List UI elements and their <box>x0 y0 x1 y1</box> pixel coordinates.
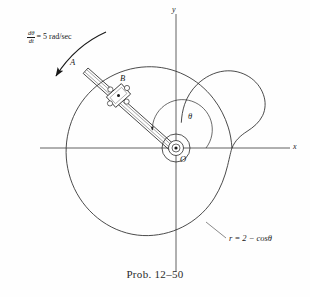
rate-value: = 5 rad/sec <box>36 32 71 41</box>
equation-leader-line <box>206 222 226 238</box>
collar-lug-nw <box>108 87 113 92</box>
pivot-pin-o <box>174 146 177 149</box>
figure-caption: Prob. 12–50 <box>0 268 310 280</box>
arm-slot-upper <box>87 70 173 146</box>
x-axis-label: x <box>293 143 297 151</box>
figure-container: y x A B O θ dθ dt = 5 rad/sec r = 2 − co… <box>0 0 310 297</box>
collar-lug-ne <box>124 85 129 90</box>
collar-lug-se <box>124 99 129 104</box>
rate-fraction: dθ dt <box>27 30 35 45</box>
equation-leader <box>206 222 226 238</box>
arm-slot-lower <box>85 72 171 148</box>
label-theta: θ <box>188 112 192 121</box>
curve-path <box>66 67 265 236</box>
label-point-a: A <box>70 58 75 67</box>
label-origin-o: O <box>180 155 186 164</box>
angular-rate-annotation: dθ dt = 5 rad/sec <box>27 30 72 45</box>
arm-edge-lower <box>83 73 169 149</box>
arm-edge-upper <box>88 68 174 144</box>
curve-equation-label: r = 2 − cosθ <box>229 234 272 243</box>
collar-pin-b <box>117 94 120 97</box>
collar-lug-sw <box>107 101 112 106</box>
label-point-b: B <box>120 74 125 83</box>
y-axis-label: y <box>172 6 176 14</box>
theta-arc <box>152 100 212 148</box>
theta-arc-group <box>152 100 212 148</box>
rate-denominator: dt <box>27 38 35 45</box>
cardioid-curve <box>66 67 265 236</box>
